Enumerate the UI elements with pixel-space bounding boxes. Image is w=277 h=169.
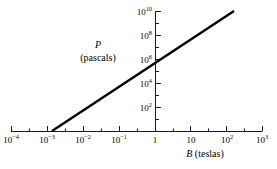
x-axis-title: B (teslas) [150, 148, 260, 160]
x-tick-label-1e2: 102 [221, 136, 233, 145]
x-tick-label-10: 10 [187, 136, 196, 145]
x-tick-label-1e-1: 10−1 [111, 136, 127, 145]
y-tick-label-1e6: 106 [133, 56, 152, 65]
y-axis-symbol: P [62, 38, 134, 51]
y-axis [156, 11, 162, 132]
x-axis [11, 126, 263, 132]
y-axis-unit: (pascals) [62, 51, 134, 64]
x-axis-unit: (teslas) [195, 148, 224, 159]
x-tick-label-1e-4: 10−4 [3, 136, 19, 145]
y-axis-minor-ticks [156, 24, 160, 120]
data-line-p-vs-b [52, 11, 234, 131]
x-tick-label-1e-3: 10−3 [39, 136, 55, 145]
y-tick-label-1e8: 108 [133, 32, 152, 41]
y-tick-label-1e2: 102 [133, 104, 152, 113]
x-tick-label-1e-2: 10−2 [75, 136, 91, 145]
x-tick-label-1: 1 [153, 136, 158, 145]
y-tick-label-1e4: 104 [133, 80, 152, 89]
y-axis-title: P (pascals) [62, 38, 134, 64]
x-tick-label-1e3: 103 [256, 136, 268, 145]
y-tick-label-1e10: 1010 [133, 8, 152, 17]
log-log-chart: 10−4 10−3 10−2 10−1 1 10 102 103 1010 10… [0, 0, 277, 169]
